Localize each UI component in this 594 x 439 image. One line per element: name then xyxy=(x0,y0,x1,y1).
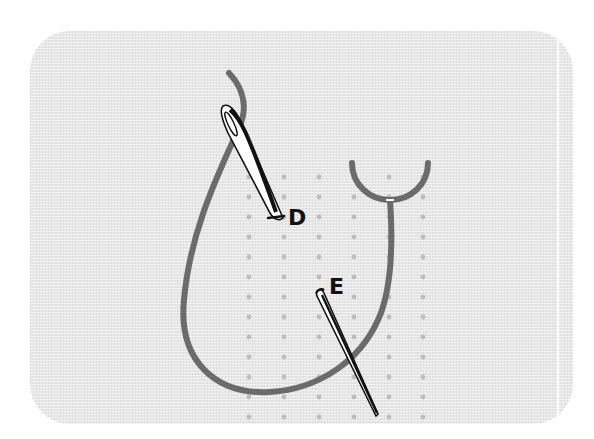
perforation-dot xyxy=(387,315,392,320)
perforation-dot xyxy=(317,215,322,220)
perforation-dot xyxy=(317,195,322,200)
perforation-dot xyxy=(421,275,426,280)
perforation-dot xyxy=(317,235,322,240)
perforation-dot xyxy=(282,315,287,320)
perforation-dot xyxy=(352,295,357,300)
perforation-dot xyxy=(352,415,357,420)
perforation-dot xyxy=(247,195,252,200)
perforation-dot xyxy=(247,215,252,220)
perforation-dot xyxy=(247,255,252,260)
perforation-dot xyxy=(421,335,426,340)
perforation-dot xyxy=(421,315,426,320)
perforation-dot xyxy=(247,275,252,280)
perforation-dot xyxy=(247,415,252,420)
perforation-dot xyxy=(352,395,357,400)
perforation-dot xyxy=(352,195,357,200)
perforation-dot xyxy=(421,395,426,400)
perforation-dot xyxy=(282,395,287,400)
perforation-dot xyxy=(282,375,287,380)
perforation-dot xyxy=(317,355,322,360)
needle-d-icon xyxy=(221,105,284,219)
perforation-dot xyxy=(317,175,322,180)
thread-loop xyxy=(183,73,391,392)
perforation-dot xyxy=(317,335,322,340)
perforation-dot xyxy=(421,415,426,420)
perforation-dot xyxy=(282,275,287,280)
perforation-dot xyxy=(421,255,426,260)
needle-e-icon xyxy=(316,289,378,416)
perforation-dot xyxy=(282,335,287,340)
perforation-dot xyxy=(387,415,392,420)
perforation-dot xyxy=(282,255,287,260)
perforation-dot xyxy=(247,355,252,360)
perforation-dot xyxy=(387,375,392,380)
perforation-dot xyxy=(247,335,252,340)
perforation-dot xyxy=(352,215,357,220)
label-d: D xyxy=(288,207,306,229)
perforation-dot xyxy=(317,275,322,280)
perforation-dot xyxy=(352,315,357,320)
perforation-dot xyxy=(352,275,357,280)
perforation-dot xyxy=(421,295,426,300)
perforation-dot xyxy=(282,415,287,420)
perforation-dot xyxy=(421,355,426,360)
perforation-dot xyxy=(282,235,287,240)
perforation-dot xyxy=(247,315,252,320)
thread-fork xyxy=(352,163,428,200)
perforation-dot xyxy=(317,415,322,420)
perforation-dot xyxy=(352,235,357,240)
perforation-dot xyxy=(282,295,287,300)
label-e: E xyxy=(329,276,344,298)
perforation-dot xyxy=(421,235,426,240)
perforation-dot xyxy=(282,355,287,360)
perforation-dot xyxy=(317,255,322,260)
perforation-dot xyxy=(387,175,392,180)
perforation-dot xyxy=(247,295,252,300)
perforation-dot xyxy=(387,335,392,340)
perforation-dot xyxy=(317,395,322,400)
perforation-dot xyxy=(387,355,392,360)
perforation-dot xyxy=(421,215,426,220)
perforation-dot xyxy=(247,395,252,400)
perforation-dot xyxy=(352,335,357,340)
perforation-dot xyxy=(247,235,252,240)
perforation-dot xyxy=(421,195,426,200)
perforation-dot xyxy=(421,375,426,380)
perforation-dot xyxy=(352,255,357,260)
perforation-dot xyxy=(317,315,322,320)
perforation-dot xyxy=(282,175,287,180)
perforation-dot xyxy=(387,395,392,400)
perforation-dot xyxy=(282,195,287,200)
perforation-dot xyxy=(247,375,252,380)
